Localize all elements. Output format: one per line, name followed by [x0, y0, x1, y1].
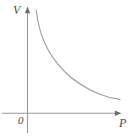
y-axis-arrowhead — [25, 7, 30, 14]
x-axis-label: P — [119, 117, 126, 129]
pv-diagram-figure: V P 0 — [0, 0, 130, 140]
origin-label: 0 — [18, 115, 24, 126]
inverse-proportion-curve — [36, 10, 120, 99]
y-axis-group — [25, 7, 30, 134]
y-axis-label: V — [13, 4, 20, 16]
